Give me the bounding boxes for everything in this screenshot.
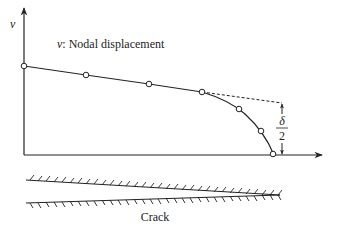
node-marker bbox=[236, 106, 242, 112]
y-axis-label: v bbox=[10, 17, 16, 31]
delta-half-dimension: δ 2 bbox=[276, 104, 288, 154]
node-marker bbox=[21, 63, 27, 69]
node-marker bbox=[258, 128, 264, 134]
crack-displacement-diagram: v v: Nodal displacement δ 2 Crack bbox=[0, 0, 339, 233]
delta-denominator: 2 bbox=[279, 129, 285, 143]
crack-lower-face bbox=[26, 195, 281, 208]
delta-numerator: δ bbox=[279, 114, 285, 128]
legend-text: : Nodal displacement bbox=[62, 37, 165, 51]
extrapolation-line bbox=[202, 92, 282, 103]
node-marker bbox=[199, 89, 205, 95]
crack-label: Crack bbox=[141, 210, 170, 224]
node-marker bbox=[83, 72, 89, 78]
crack-upper-face bbox=[26, 175, 282, 195]
node-marker bbox=[146, 81, 152, 87]
nodes bbox=[21, 63, 276, 157]
legend-label: v: Nodal displacement bbox=[57, 37, 165, 51]
node-marker bbox=[270, 151, 276, 157]
